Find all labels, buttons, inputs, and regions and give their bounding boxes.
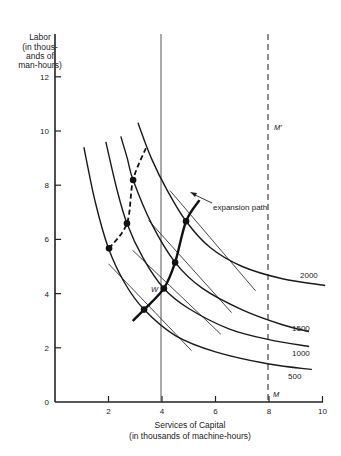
isoquant-label-1000: 1000 bbox=[292, 349, 310, 358]
y-tick-label: 6 bbox=[45, 235, 50, 244]
paths bbox=[109, 148, 199, 321]
y-tick-label: 8 bbox=[45, 181, 50, 190]
point-w-label: W bbox=[151, 285, 159, 294]
equilibrium-dot bbox=[124, 220, 131, 227]
isoquant-label-2000: 2000 bbox=[300, 271, 318, 280]
x-axis-ticks: 246810 bbox=[106, 396, 327, 416]
equilibrium-dot bbox=[106, 245, 113, 252]
equilibrium-dot bbox=[183, 218, 190, 225]
isoquant-label-500: 500 bbox=[288, 372, 302, 381]
isoquant-500 bbox=[84, 147, 312, 369]
equilibrium-dot bbox=[172, 259, 179, 266]
x-tick-label: 10 bbox=[318, 407, 327, 416]
x-axis-title-line-2: (in thousands of machine-hours) bbox=[129, 431, 251, 441]
y-tick-label: 10 bbox=[40, 127, 49, 136]
x-tick-label: 6 bbox=[213, 407, 218, 416]
m-prime-label: M′ bbox=[274, 123, 282, 132]
chart-container: Labor (in thous- ands of man-hours) 2468… bbox=[0, 0, 341, 456]
x-tick-label: 8 bbox=[267, 407, 272, 416]
isoquant-label-1500: 1500 bbox=[292, 324, 310, 333]
x-axis-title: Services of Capital (in thousands of mac… bbox=[129, 420, 251, 441]
equilibrium-dot bbox=[161, 285, 168, 292]
origin-label: 0 bbox=[45, 398, 50, 407]
isoquant-1500 bbox=[121, 136, 309, 331]
expansion-path bbox=[133, 200, 200, 321]
x-tick-label: 2 bbox=[106, 407, 111, 416]
y-tick-label: 2 bbox=[45, 344, 50, 353]
expansion-path-label: expansion path bbox=[213, 203, 267, 212]
x-tick-label: 4 bbox=[160, 407, 165, 416]
isoquant-curves bbox=[84, 123, 325, 370]
arrowhead-icon bbox=[190, 192, 197, 197]
y-tick-label: 4 bbox=[45, 290, 50, 299]
expansion-path-arrow bbox=[193, 194, 212, 203]
equilibrium-dot bbox=[130, 177, 137, 184]
x-axis-title-line-1: Services of Capital bbox=[155, 420, 226, 430]
m-label: M bbox=[273, 390, 280, 399]
y-tick-label: 12 bbox=[40, 73, 49, 82]
y-axis-title-line-1: Labor bbox=[29, 32, 51, 42]
isoquant-chart: Labor (in thous- ands of man-hours) 2468… bbox=[0, 0, 341, 456]
y-axis-ticks: 24681012 bbox=[40, 73, 61, 353]
equilibrium-dot bbox=[141, 306, 148, 313]
